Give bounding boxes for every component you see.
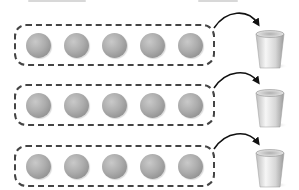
cup-icon xyxy=(256,150,288,189)
cup-icon xyxy=(256,31,288,70)
curved-arrow-icon xyxy=(214,13,258,28)
cup-icon xyxy=(256,90,288,129)
arrows-and-cups xyxy=(0,0,299,190)
curved-arrow-icon xyxy=(214,73,258,88)
grouping-diagram xyxy=(0,0,299,190)
curved-arrow-icon xyxy=(214,134,258,149)
